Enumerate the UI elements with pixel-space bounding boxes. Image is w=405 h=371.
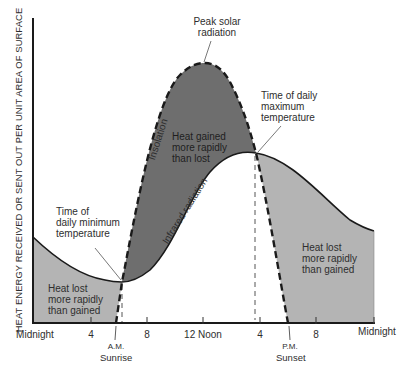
sunset-pointer [289, 326, 290, 340]
x-tick-4pm: 4 [257, 329, 263, 340]
heat-gained-label: Heat gained more rapidly than lost [172, 131, 227, 164]
heat-lost-left-label: Heat lost more rapidly than gained [48, 283, 103, 316]
heat-loss-region-right [256, 153, 374, 323]
max-temp-annotation: Time of daily maximum temperature [261, 90, 317, 123]
x-tick-8am: 8 [144, 329, 150, 340]
sunrise-am-label: A.M. [104, 342, 128, 351]
sunrise-pointer [115, 326, 116, 340]
max-temp-leader [258, 126, 281, 152]
peak-solar-leader [204, 41, 211, 62]
x-tick-midnight-start: Midnight [16, 329, 54, 340]
heat-lost-right-label: Heat lost more rapidly than gained [302, 242, 357, 275]
min-temp-leader [95, 248, 121, 280]
x-tick-8pm: 8 [313, 329, 319, 340]
x-tick-midnight-end: Midnight [358, 326, 396, 337]
min-temp-annotation: Time of daily minimum temperature [56, 206, 120, 239]
peak-solar-annotation: Peak solar radiation [193, 16, 241, 38]
sunset-pm-label: P.M. [278, 342, 302, 351]
y-axis-label: HEAT ENERGY RECEIVED OR SENT OUT PER UNI… [13, 8, 24, 333]
sunset-label: Sunset [276, 352, 306, 363]
x-tick-4am: 4 [88, 329, 94, 340]
x-tick-noon: 12 Noon [184, 329, 222, 340]
sunrise-label: Sunrise [100, 352, 132, 363]
